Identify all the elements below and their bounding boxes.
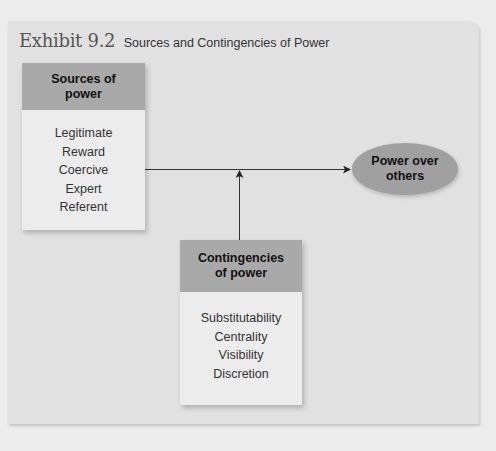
sources-of-power-box: Sources of power Legitimate Reward Coerc… xyxy=(22,63,145,230)
contingencies-heading-text: Contingencies of power xyxy=(191,251,291,281)
sources-list: Legitimate Reward Coercive Expert Refere… xyxy=(22,110,145,217)
contingencies-list: Substitutability Centrality Visibility D… xyxy=(180,292,302,383)
contingencies-heading: Contingencies of power xyxy=(180,240,302,292)
source-item: Coercive xyxy=(22,161,145,180)
outcome-label: Power over others xyxy=(365,154,445,184)
contingency-item: Substitutability xyxy=(180,309,302,328)
source-item: Legitimate xyxy=(22,124,145,143)
source-item: Reward xyxy=(22,143,145,162)
contingency-item: Visibility xyxy=(180,346,302,365)
contingencies-of-power-box: Contingencies of power Substitutability … xyxy=(180,240,302,405)
contingency-item: Discretion xyxy=(180,365,302,384)
sources-heading-text: Sources of power xyxy=(44,72,124,102)
sources-heading: Sources of power xyxy=(22,63,145,110)
source-item: Referent xyxy=(22,198,145,217)
source-item: Expert xyxy=(22,180,145,199)
power-over-others-ellipse: Power over others xyxy=(352,143,458,195)
contingency-item: Centrality xyxy=(180,328,302,347)
